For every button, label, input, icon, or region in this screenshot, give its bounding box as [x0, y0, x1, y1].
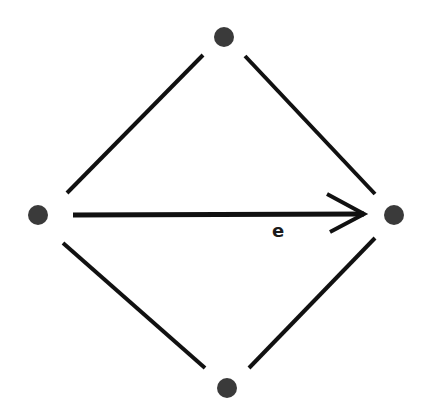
node-top: [214, 27, 234, 47]
edge-left-top: [67, 55, 203, 193]
node-bottom: [217, 378, 237, 398]
edge-top-right: [245, 56, 375, 194]
graph-diagram: e: [0, 0, 421, 417]
edge-label-e: e: [272, 220, 284, 241]
edge-bottom-right: [249, 238, 375, 368]
edge-left-bottom: [63, 243, 205, 368]
node-left: [28, 205, 48, 225]
directed-edge-e: e: [73, 194, 364, 241]
node-right: [384, 205, 404, 225]
